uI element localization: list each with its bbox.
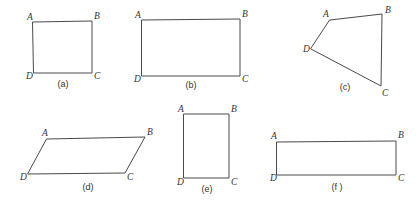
vertex-label-d-c: C xyxy=(127,172,134,182)
quadrilaterals-figure-sheet: ABCD(a)ABCD(b)ABCD(c)ABCD(d)ABCD(e)ABCD(… xyxy=(0,0,416,204)
vertex-label-a-c: C xyxy=(94,71,101,81)
figure-caption-c: (c) xyxy=(340,82,351,92)
figure-caption-a: (a) xyxy=(58,79,69,89)
figure-caption-f: (f ) xyxy=(332,182,343,192)
vertex-label-d-a: A xyxy=(41,128,48,138)
vertex-label-d-b: B xyxy=(147,127,153,137)
vertex-label-c-c: C xyxy=(382,88,389,98)
vertex-label-d-d: D xyxy=(19,172,27,182)
figure-f: ABCD(f ) xyxy=(269,130,405,192)
vertex-label-b-c: C xyxy=(242,74,249,84)
vertex-label-b-a: A xyxy=(134,10,141,20)
quadrilateral-outline-a xyxy=(33,21,92,73)
quadrilateral-outline-b xyxy=(142,19,240,76)
vertex-label-a-a: A xyxy=(26,12,33,22)
figure-c: ABCD(c) xyxy=(302,5,391,98)
vertex-label-f-b: B xyxy=(398,130,404,140)
figure-d: ABCD(d) xyxy=(19,127,153,192)
vertex-label-b-b: B xyxy=(242,9,248,19)
quadrilateral-outline-d xyxy=(28,137,145,174)
vertex-label-c-a: A xyxy=(322,9,329,19)
vertex-label-a-b: B xyxy=(94,11,100,21)
quadrilateral-outline-f xyxy=(277,141,396,175)
vertex-label-f-c: C xyxy=(398,173,405,183)
figure-b: ABCD(b) xyxy=(133,9,249,90)
vertex-label-c-d: D xyxy=(302,44,310,54)
vertex-label-f-a: A xyxy=(270,131,277,141)
vertex-label-f-d: D xyxy=(269,173,277,183)
vertex-label-e-a: A xyxy=(177,104,184,114)
quadrilateral-outline-e xyxy=(184,114,229,178)
vertex-label-e-b: B xyxy=(231,104,237,114)
figure-caption-e: (e) xyxy=(202,184,213,194)
figure-canvas: ABCD(a)ABCD(b)ABCD(c)ABCD(d)ABCD(e)ABCD(… xyxy=(0,0,416,204)
vertex-label-a-d: D xyxy=(25,71,33,81)
vertex-label-b-d: D xyxy=(133,74,141,84)
figure-e: ABCD(e) xyxy=(176,104,238,194)
vertex-label-e-d: D xyxy=(176,177,184,187)
vertex-label-c-b: B xyxy=(385,5,391,15)
figure-a: ABCD(a) xyxy=(25,11,101,89)
figure-caption-d: (d) xyxy=(83,182,94,192)
vertex-label-e-c: C xyxy=(231,177,238,187)
quadrilateral-outline-c xyxy=(311,14,382,86)
figure-caption-b: (b) xyxy=(186,80,197,90)
